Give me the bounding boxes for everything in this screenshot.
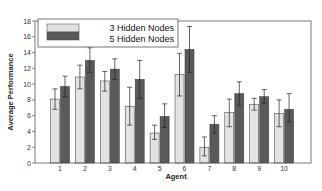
y-tick-label: 12 bbox=[23, 65, 31, 72]
y-tick-label: 14 bbox=[23, 49, 31, 56]
x-tick-label: 8 bbox=[232, 165, 236, 172]
y-tick-label: 18 bbox=[23, 18, 31, 25]
x-tick-label: 2 bbox=[83, 165, 87, 172]
x-tick-label: 4 bbox=[133, 165, 137, 172]
x-axis: 12345678910 bbox=[58, 165, 288, 172]
legend-swatch-5-hidden-nodes bbox=[47, 32, 79, 40]
x-tick-label: 10 bbox=[280, 165, 288, 172]
x-tick-label: 5 bbox=[158, 165, 162, 172]
bar-groups bbox=[51, 49, 294, 163]
x-tick-label: 3 bbox=[108, 165, 112, 172]
bar-3-hidden-nodes-agent-3 bbox=[100, 81, 109, 163]
y-axis: 024681012141618 bbox=[23, 18, 35, 167]
legend-label-5-hidden-nodes: 5 Hidden Nodes bbox=[109, 34, 174, 44]
y-tick-label: 2 bbox=[27, 144, 31, 151]
bar-3-hidden-nodes-agent-9 bbox=[250, 105, 259, 163]
legend-label-3-hidden-nodes: 3 Hidden Nodes bbox=[109, 23, 174, 33]
y-tick-label: 0 bbox=[27, 160, 31, 167]
x-tick-label: 9 bbox=[257, 165, 261, 172]
y-tick-label: 8 bbox=[27, 96, 31, 103]
y-tick-label: 10 bbox=[23, 81, 31, 88]
legend-swatch-3-hidden-nodes bbox=[47, 24, 79, 32]
bar-5-hidden-nodes-agent-3 bbox=[110, 69, 119, 163]
legend: 3 Hidden Nodes 5 Hidden Nodes bbox=[38, 19, 178, 47]
y-axis-label: Average Performance bbox=[6, 53, 15, 130]
bar-5-hidden-nodes-agent-9 bbox=[260, 97, 269, 163]
bar-5-hidden-nodes-agent-1 bbox=[61, 86, 70, 163]
y-tick-label: 6 bbox=[27, 112, 31, 119]
y-tick-label: 16 bbox=[23, 33, 31, 40]
x-tick-label: 1 bbox=[58, 165, 62, 172]
bar-3-hidden-nodes-agent-2 bbox=[75, 77, 84, 163]
x-tick-label: 7 bbox=[207, 165, 211, 172]
bar-chart: 024681012141618 12345678910 Agent Averag… bbox=[0, 0, 322, 191]
bar-5-hidden-nodes-agent-2 bbox=[85, 60, 94, 163]
y-tick-label: 4 bbox=[27, 128, 31, 135]
x-tick-label: 6 bbox=[183, 165, 187, 172]
x-axis-label: Agent bbox=[165, 172, 187, 181]
